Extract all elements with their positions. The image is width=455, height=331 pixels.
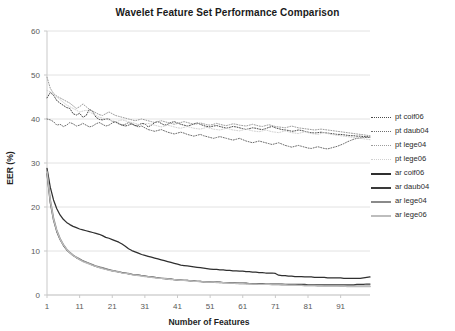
legend-item-label: pt lege06 [395, 154, 426, 164]
legend-item[interactable]: pt coif06 [371, 110, 455, 124]
chart-legend: pt coif06pt daub04pt lege04pt lege06ar c… [371, 110, 455, 222]
legend-item[interactable]: ar lege06 [371, 208, 455, 222]
legend-item-label: pt daub04 [395, 126, 429, 136]
legend-item-label: pt lege04 [395, 140, 426, 150]
y-tick-label: 40 [31, 115, 40, 124]
x-axis-tick-labels: 1112131415161718191 [45, 302, 346, 311]
legend-item[interactable]: ar coif06 [371, 166, 455, 180]
y-axis-tick-labels: 0102030405060 [31, 27, 40, 300]
grid-lines [47, 31, 370, 295]
series-line [47, 174, 370, 285]
legend-item[interactable]: pt lege04 [371, 138, 455, 152]
legend-item-label: ar daub04 [395, 182, 429, 192]
legend-swatch-icon [371, 169, 391, 178]
legend-swatch-icon [371, 127, 391, 136]
y-tick-label: 60 [31, 27, 40, 36]
x-tick-label: 1 [45, 302, 50, 311]
legend-swatch-icon [371, 197, 391, 206]
y-tick-label: 30 [31, 159, 40, 168]
y-tick-label: 50 [31, 71, 40, 80]
x-tick-label: 21 [108, 302, 117, 311]
series-line [47, 93, 370, 137]
x-tick-label: 91 [336, 302, 345, 311]
legend-item-label: ar coif06 [395, 168, 424, 178]
legend-item[interactable]: pt lege06 [371, 152, 455, 166]
data-series-group [47, 77, 370, 286]
y-tick-label: 20 [31, 203, 40, 212]
x-tick-label: 71 [271, 302, 280, 311]
legend-item-label: pt coif06 [395, 112, 424, 122]
legend-item[interactable]: ar daub04 [371, 180, 455, 194]
chart-container: Wavelet Feature Set Performance Comparis… [0, 0, 455, 331]
legend-item-label: ar lege06 [395, 210, 427, 220]
x-tick-label: 41 [173, 302, 182, 311]
legend-swatch-icon [371, 183, 391, 192]
y-tick-label: 0 [36, 291, 41, 300]
legend-swatch-icon [371, 155, 391, 164]
legend-item-label: ar lege04 [395, 196, 427, 206]
legend-swatch-icon [371, 211, 391, 220]
legend-swatch-icon [371, 141, 391, 150]
legend-item[interactable]: ar lege04 [371, 194, 455, 208]
x-tick-label: 81 [304, 302, 313, 311]
series-line [47, 168, 370, 278]
x-tick-label: 31 [140, 302, 149, 311]
y-axis-title: EER (%) [5, 151, 15, 185]
series-line [47, 119, 370, 149]
y-tick-label: 10 [31, 247, 40, 256]
x-tick-label: 11 [75, 302, 84, 311]
axis-lines [44, 31, 370, 298]
x-tick-label: 51 [206, 302, 215, 311]
x-axis-title: Number of Features [168, 317, 249, 327]
legend-item[interactable]: pt daub04 [371, 124, 455, 138]
legend-swatch-icon [371, 113, 391, 122]
series-line [47, 77, 370, 136]
x-tick-label: 61 [238, 302, 247, 311]
